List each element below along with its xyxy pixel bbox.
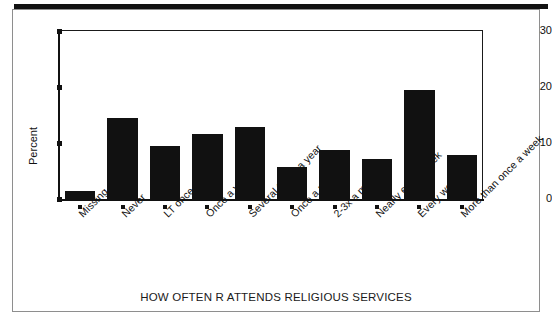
- figure-root: 0102030 Percent MissingNeverLT once a ye…: [0, 0, 552, 325]
- x-axis-title: HOW OFTEN R ATTENDS RELIGIOUS SERVICES: [0, 291, 552, 303]
- bar: [107, 118, 138, 199]
- bar-series: [0, 0, 552, 325]
- bar: [150, 146, 181, 199]
